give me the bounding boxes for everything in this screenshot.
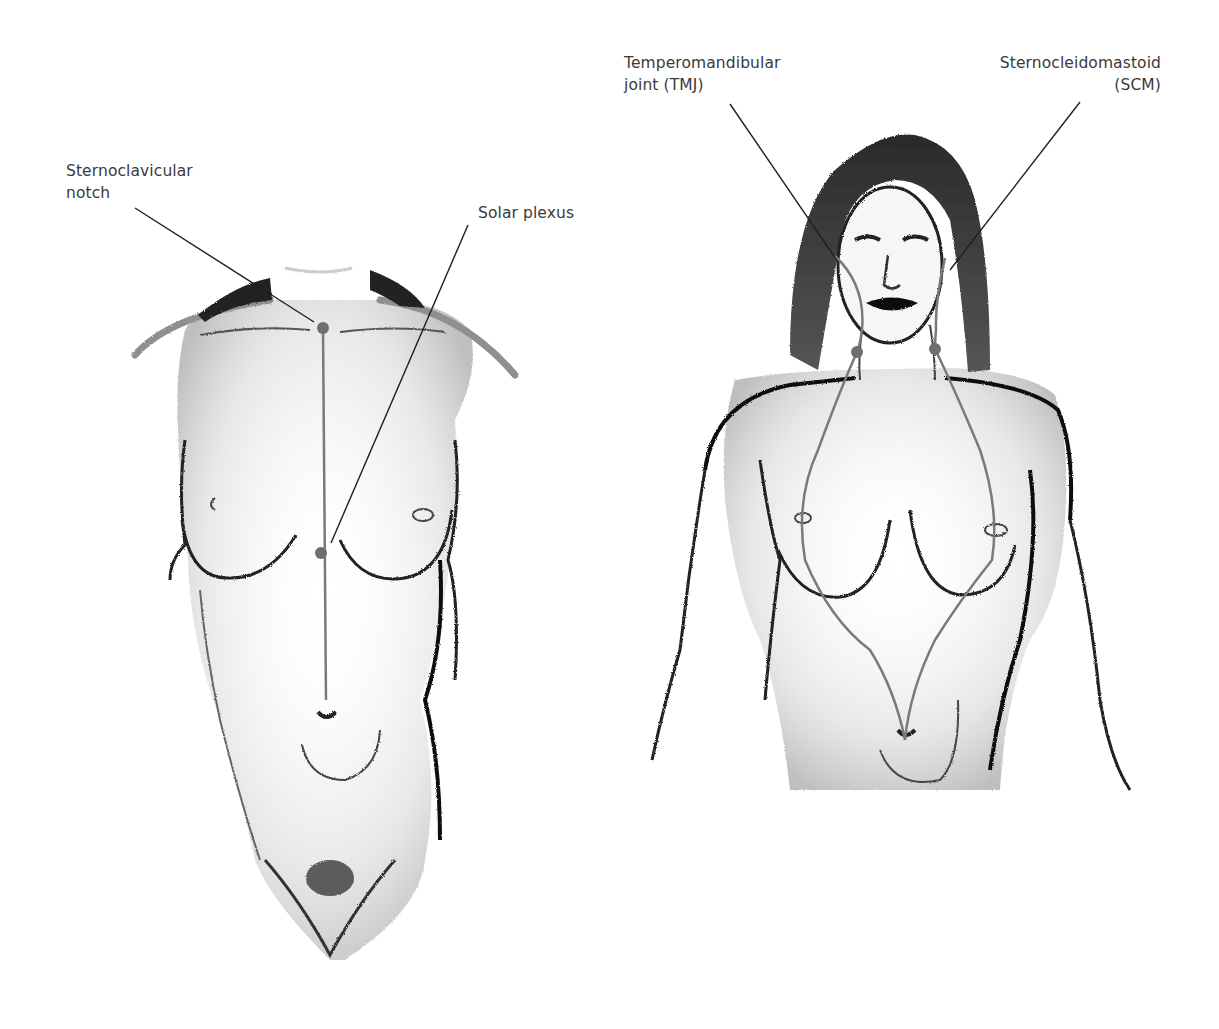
anatomy-diagram: Sternoclavicular notch Solar plexus Temp… [0, 0, 1219, 1029]
label-line: Sternoclavicular [66, 160, 193, 182]
label-tmj: Temperomandibular joint (TMJ) [624, 52, 780, 96]
label-line: Temperomandibular [624, 52, 780, 74]
label-line: Solar plexus [478, 202, 574, 224]
label-line: (SCM) [1000, 74, 1161, 96]
label-line: joint (TMJ) [624, 74, 780, 96]
solar-plexus-dot [315, 547, 327, 559]
label-scm: Sternocleidomastoid (SCM) [1000, 52, 1161, 96]
label-solar-plexus: Solar plexus [478, 202, 574, 224]
sternoclavicular-notch-dot [317, 322, 329, 334]
label-line: notch [66, 182, 193, 204]
label-line: Sternocleidomastoid [1000, 52, 1161, 74]
label-sternoclavicular-notch: Sternoclavicular notch [66, 160, 193, 204]
left-neck-dot [851, 346, 863, 358]
right-neck-dot [929, 343, 941, 355]
figures-illustration [0, 0, 1219, 1029]
